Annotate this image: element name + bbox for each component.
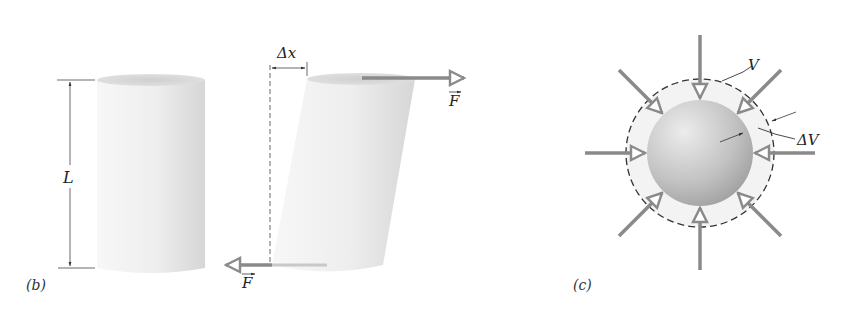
length-dimension: L <box>57 80 95 268</box>
volume-label: V <box>748 56 761 74</box>
displacement-label: Δx <box>276 44 297 62</box>
panel-b: L Δx F F (b) <box>26 44 464 293</box>
sheared-cylinder <box>272 73 415 272</box>
displacement-dimension: Δx <box>272 44 307 76</box>
panel-b-label: (b) <box>26 277 46 293</box>
compressed-sphere <box>647 100 753 206</box>
length-label: L <box>62 168 74 187</box>
panel-c-label: (c) <box>573 277 592 293</box>
volume-label-group: V <box>722 56 761 81</box>
upright-cylinder <box>97 74 205 273</box>
force-top-label: F <box>448 92 460 110</box>
force-bottom-label: F <box>241 274 253 292</box>
panel-c: V ΔV (c) <box>573 35 821 293</box>
stress-diagram: L Δx F F (b) <box>0 0 843 309</box>
volume-change-label: ΔV <box>796 131 821 149</box>
